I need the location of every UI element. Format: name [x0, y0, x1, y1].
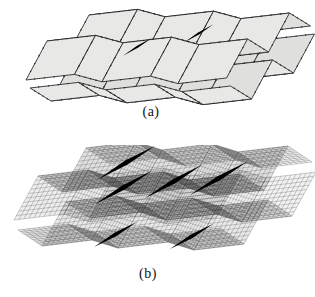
paper-figure-panel: (a) (b) [0, 0, 315, 297]
deformed-fine-mesh-rendering [0, 145, 315, 265]
subfigure-a-label: (a) [0, 104, 302, 120]
folded-plate-coarse-model-rendering [0, 0, 315, 145]
subfigure-b-label: (b) [0, 266, 296, 282]
